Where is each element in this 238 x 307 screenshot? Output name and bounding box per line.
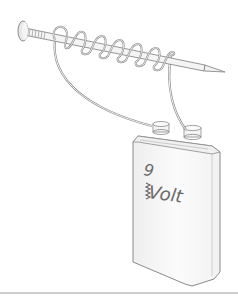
battery: 9 Volt <box>133 122 220 287</box>
negative-terminal <box>184 125 201 139</box>
positive-terminal <box>153 122 169 135</box>
nail <box>18 21 225 72</box>
electromagnet-diagram: 9 Volt <box>0 0 238 307</box>
